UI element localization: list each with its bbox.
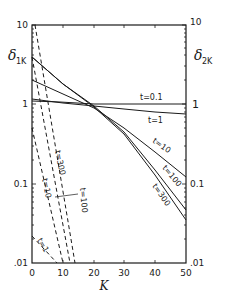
x-tick-0: 0 (29, 268, 35, 278)
x-tick-50: 50 (180, 268, 192, 278)
curve-t1-solid (32, 99, 186, 114)
svg-text:2K: 2K (202, 57, 213, 66)
y-left-axis-label: δ 1K (8, 47, 27, 66)
curve-t10-solid (32, 80, 186, 177)
label-t300-dashed: t=300 (53, 150, 67, 176)
label-t1-dashed: t=1 (35, 237, 50, 254)
right-tick-0.1: 0.1 (190, 179, 204, 189)
svg-text:1K: 1K (16, 57, 27, 66)
y-right-axis-label: δ 2K (194, 47, 213, 66)
right-tick-0.01: .01 (190, 258, 204, 268)
label-t0.1: t=0.1 (140, 93, 163, 102)
label-t100: t=100 (160, 164, 183, 189)
x-tick-30: 30 (118, 268, 130, 278)
label-t10-dashed: t=10 (40, 178, 53, 199)
x-axis-ticks (63, 25, 155, 263)
x-tick-40: 40 (149, 268, 161, 278)
label-t10: t=10 (151, 136, 173, 155)
curve-t0.1-solid (32, 101, 186, 104)
x-tick-20: 20 (88, 268, 100, 278)
left-tick-0.1: 0.1 (14, 179, 28, 189)
right-tick-10: 10 (190, 17, 202, 27)
label-t100-dashed: t=100 (78, 187, 89, 213)
delta-k-chart: 10 1 0.1 .01 10 1 0.1 .01 0 10 20 30 40 … (0, 0, 226, 302)
right-tick-1: 1 (192, 98, 199, 111)
label-t1: t=1 (148, 116, 163, 125)
left-tick-0.01: .01 (14, 258, 28, 268)
left-tick-1: 1 (22, 99, 28, 109)
x-tick-10: 10 (57, 268, 69, 278)
left-tick-10: 10 (17, 20, 29, 30)
x-axis-label: K (99, 279, 110, 293)
